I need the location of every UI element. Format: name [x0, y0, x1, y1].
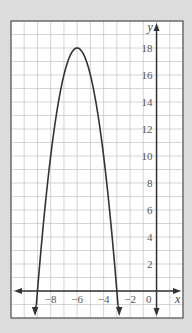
y-axis-label: y: [147, 20, 154, 34]
y-tick-label: 14: [142, 96, 154, 108]
y-tick-label: 16: [142, 69, 154, 81]
x-axis-label: x: [174, 292, 181, 306]
x-tick-label: −2: [124, 293, 136, 305]
y-tick-label: 2: [147, 258, 153, 270]
y-tick-label: 12: [142, 123, 153, 135]
parabola-chart: −8−6−4−2024681012141618 x y: [0, 0, 192, 333]
x-tick-label: −6: [71, 293, 83, 305]
y-tick-label: 10: [142, 150, 154, 162]
x-tick-label: −8: [45, 293, 57, 305]
y-tick-label: 8: [147, 177, 153, 189]
x-tick-label: 0: [146, 293, 152, 305]
y-tick-label: 6: [147, 204, 153, 216]
y-tick-label: 18: [142, 42, 154, 54]
x-tick-label: −4: [98, 293, 110, 305]
y-tick-label: 4: [147, 231, 153, 243]
